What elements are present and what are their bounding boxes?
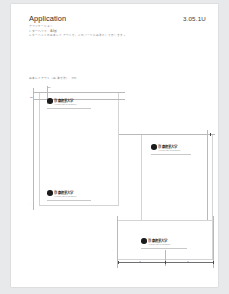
logo-english-text: KYOTO SANGYO UNIVERSITY bbox=[148, 244, 171, 246]
logo-text-block: がくえん 京都産業大学 KYOTO SANGYO UNIVERSITY bbox=[54, 98, 77, 106]
dimension-label-b: b bbox=[187, 260, 189, 262]
figure-caption-unit: mm bbox=[72, 77, 77, 80]
logo-text-block: がくえん 京都産業大学 KYOTO SANGYO UNIVERSITY bbox=[54, 190, 77, 198]
dimension-tick-left-a: 15 bbox=[30, 97, 33, 99]
logo-name-text: 京都産業大学 bbox=[54, 100, 77, 103]
page-subtitle: アプリケーション レターヘッド／A4版 レターヘッドの基本レイアウトを、このペー… bbox=[29, 25, 127, 38]
artboard-letterhead-portrait bbox=[39, 92, 119, 206]
address-rule-c bbox=[141, 248, 187, 249]
university-mark-icon bbox=[47, 98, 53, 104]
logo-lockup-c: がくえん 京都産業大学 KYOTO SANGYO UNIVERSITY bbox=[141, 238, 171, 246]
university-mark-icon bbox=[141, 238, 147, 244]
logo-text-block: がくえん 京都産業大学 KYOTO SANGYO UNIVERSITY bbox=[148, 238, 171, 246]
logo-name-text: 京都産業大学 bbox=[54, 192, 77, 195]
document-page: Application 3.05.1U アプリケーション レターヘッド／A4版 … bbox=[11, 4, 218, 287]
logo-lockup-b: がくえん 京都産業大学 KYOTO SANGYO UNIVERSITY bbox=[151, 144, 181, 152]
address-rule-a-top bbox=[47, 108, 91, 109]
dimension-label-a: a bbox=[139, 260, 141, 262]
logo-english-text: KYOTO SANGYO UNIVERSITY bbox=[54, 104, 77, 106]
subtitle-line-3: レターヘッドの基本レイアウトを、このページに基準として示します。 bbox=[29, 34, 127, 38]
address-rule-a-bottom bbox=[47, 200, 91, 201]
university-mark-icon bbox=[47, 190, 53, 196]
subtitle-line-2: レターヘッド／A4版 bbox=[29, 29, 127, 33]
logo-text-block: がくえん 京都産業大学 KYOTO SANGYO UNIVERSITY bbox=[158, 144, 181, 152]
logo-lockup-a-top: がくえん 京都産業大学 KYOTO SANGYO UNIVERSITY bbox=[47, 98, 77, 106]
logo-name-text: 京都産業大学 bbox=[158, 146, 181, 149]
logo-name-text: 京都産業大学 bbox=[148, 240, 171, 243]
corner-mark-bottom-left-a: ⌐ bbox=[30, 203, 31, 205]
page-title: Application bbox=[29, 14, 66, 23]
address-rule-b bbox=[151, 154, 191, 155]
dimension-label-top-a: 20 bbox=[48, 86, 51, 88]
logo-english-text: KYOTO SANGYO UNIVERSITY bbox=[158, 150, 181, 152]
figure-caption: 基本レイアウト（基準寸法）mm bbox=[29, 76, 76, 80]
logo-english-text: KYOTO SANGYO UNIVERSITY bbox=[54, 196, 77, 198]
page-folio-number: 3.05.1U bbox=[183, 15, 206, 22]
corner-mark-left-c: ⌐ bbox=[112, 250, 113, 252]
logo-lockup-a-bottom: がくえん 京都産業大学 KYOTO SANGYO UNIVERSITY bbox=[47, 190, 77, 198]
figure-caption-text: 基本レイアウト（基準寸法） bbox=[29, 77, 69, 80]
pdf-viewer: Application 3.05.1U アプリケーション レターヘッド／A4版 … bbox=[0, 0, 229, 294]
corner-mark-top-left-a: ⌐ bbox=[30, 91, 31, 93]
subtitle-line-1: アプリケーション bbox=[29, 25, 127, 29]
university-mark-icon bbox=[151, 144, 157, 150]
